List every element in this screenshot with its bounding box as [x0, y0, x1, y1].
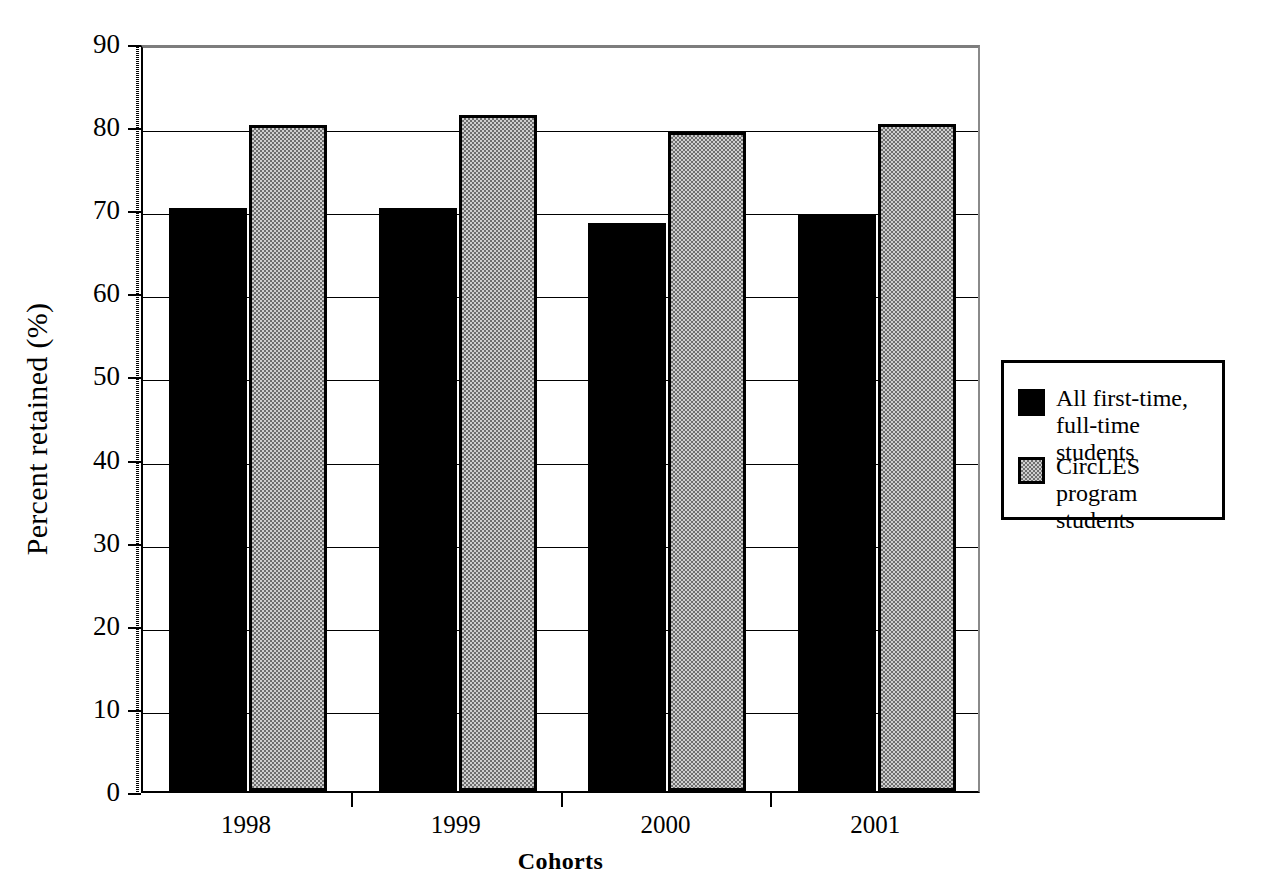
- gray-square-icon: [1018, 457, 1045, 484]
- x-tick-mark-3: [770, 793, 772, 807]
- bar-1999-series-0: [379, 208, 457, 791]
- y-tick-label: 40: [0, 447, 120, 474]
- y-tick-mark-50: [128, 377, 141, 379]
- legend: All first-time, full-time studentsCircLE…: [1001, 360, 1225, 520]
- y-tick-mark-20: [128, 627, 141, 629]
- black-square-icon: [1018, 389, 1045, 416]
- legend-label-1: CircLES program students: [1056, 453, 1222, 534]
- y-tick-label: 80: [0, 114, 120, 141]
- plot-area: [141, 45, 980, 793]
- y-tick-label: 90: [0, 31, 120, 58]
- y-tick-mark-80: [128, 128, 141, 130]
- bar-chart-figure: Percent retained (%) 0102030405060708090…: [0, 0, 1273, 883]
- y-tick-mark-90: [128, 45, 141, 47]
- x-tick-label-1999: 1999: [396, 812, 516, 838]
- y-tick-mark-30: [128, 544, 141, 546]
- y-tick-label: 10: [0, 696, 120, 723]
- x-tick-label-2000: 2000: [605, 812, 725, 838]
- y-tick-mark-60: [128, 294, 141, 296]
- y-tick-label: 0: [0, 779, 120, 806]
- bar-2000-series-0: [588, 223, 666, 791]
- bar-2000-series-1: [668, 132, 746, 791]
- x-tick-mark-1: [351, 793, 353, 807]
- y-tick-label: 70: [0, 197, 120, 224]
- bar-1999-series-1: [459, 115, 537, 791]
- y-axis: 0102030405060708090: [0, 0, 141, 883]
- y-tick-mark-10: [128, 710, 141, 712]
- bar-1998-series-1: [249, 125, 327, 791]
- x-tick-label-2001: 2001: [815, 812, 935, 838]
- y-tick-mark-40: [128, 461, 141, 463]
- y-tick-mark-0: [128, 793, 141, 795]
- y-tick-label: 50: [0, 363, 120, 390]
- bar-2001-series-1: [878, 124, 956, 791]
- x-tick-label-1998: 1998: [186, 812, 306, 838]
- y-tick-label: 60: [0, 280, 120, 307]
- legend-entry-1: CircLES program students: [1018, 453, 1222, 534]
- y-tick-label: 20: [0, 613, 120, 640]
- y-tick-label: 30: [0, 530, 120, 557]
- x-tick-mark-2: [561, 793, 563, 807]
- y-tick-mark-70: [128, 211, 141, 213]
- bar-2001-series-0: [798, 215, 876, 791]
- x-axis-title: Cohorts: [141, 848, 980, 875]
- bar-1998-series-0: [169, 208, 247, 791]
